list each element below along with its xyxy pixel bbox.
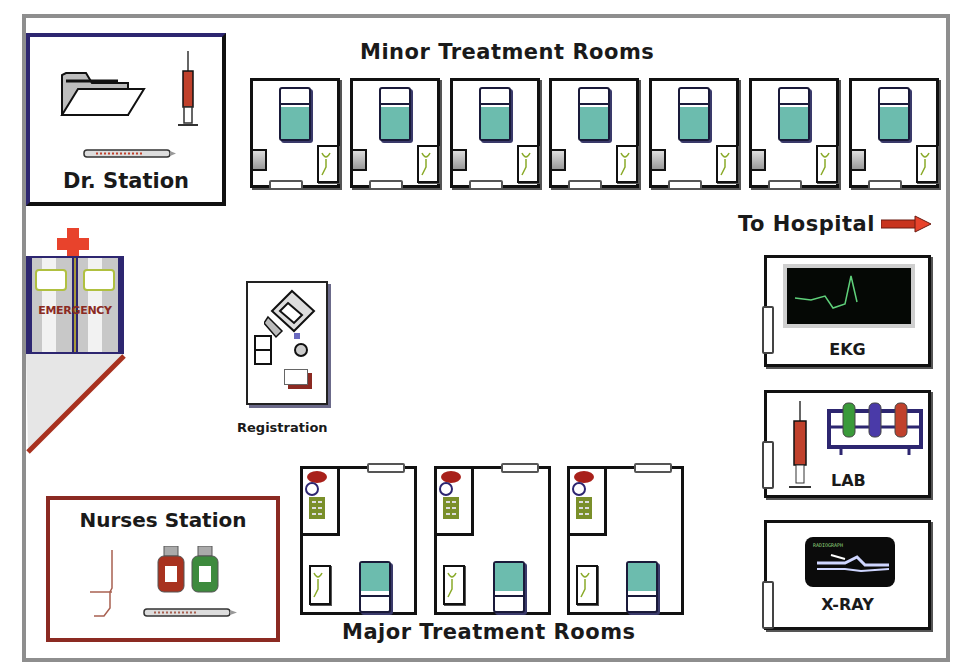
paper-sheet xyxy=(284,369,308,385)
dr-station-label: Dr. Station xyxy=(30,169,222,193)
stethoscope-cabinet-icon xyxy=(309,565,331,605)
major-rooms-heading: Major Treatment Rooms xyxy=(342,620,636,644)
xray-room[interactable]: RADIOGRAPH X-RAY xyxy=(764,520,931,630)
stethoscope-cabinet-icon xyxy=(616,145,638,183)
room-door xyxy=(768,180,802,190)
lab-label: LAB xyxy=(831,471,866,490)
room-door xyxy=(868,180,902,190)
svg-text:RADIOGRAPH: RADIOGRAPH xyxy=(813,542,843,548)
nurses-station-label: Nurses Station xyxy=(50,508,276,532)
equipment-alcove xyxy=(437,469,474,536)
chair-icon xyxy=(550,149,566,171)
minor-treatment-room-3[interactable] xyxy=(450,78,540,188)
bed-icon xyxy=(279,87,311,141)
stethoscope-cabinet-icon xyxy=(317,145,339,183)
to-hospital-label: To Hospital xyxy=(738,212,875,236)
red-bottle-icon xyxy=(156,546,186,594)
major-treatment-room-2[interactable] xyxy=(434,466,551,615)
room-door xyxy=(369,180,403,190)
minor-rooms-heading: Minor Treatment Rooms xyxy=(360,40,654,64)
phone-icon xyxy=(254,335,272,365)
syringe-icon xyxy=(176,51,200,135)
stethoscope-cabinet-icon xyxy=(517,145,539,183)
registration-desk[interactable] xyxy=(246,281,328,405)
xray-label: X-RAY xyxy=(767,595,928,614)
bed-icon xyxy=(359,561,391,613)
emergency-doors-icon xyxy=(26,226,126,456)
bed-icon xyxy=(493,561,525,613)
emergency-label: EMERGENCY xyxy=(26,304,124,317)
bed-icon xyxy=(578,87,610,141)
stethoscope-cabinet-icon xyxy=(916,145,938,183)
room-door xyxy=(668,180,702,190)
bed-icon xyxy=(878,87,910,141)
registration-label: Registration xyxy=(237,420,328,435)
syringe-icon xyxy=(789,401,811,491)
minor-treatment-room-5[interactable] xyxy=(649,78,739,188)
xray-film: RADIOGRAPH xyxy=(805,537,895,587)
major-treatment-room-1[interactable] xyxy=(300,466,417,615)
crash-cart-icon xyxy=(437,469,471,531)
right-arrow-icon xyxy=(881,215,933,233)
emergency-entrance[interactable]: EMERGENCY xyxy=(26,226,126,456)
chair-icon xyxy=(251,149,267,171)
minor-treatment-room-1[interactable] xyxy=(250,78,340,188)
chair-icon xyxy=(351,149,367,171)
stethoscope-cabinet-icon xyxy=(417,145,439,183)
thermometer-icon xyxy=(82,147,178,161)
ekg-label: EKG xyxy=(767,340,928,359)
chair-icon xyxy=(650,149,666,171)
test-tube-rack-icon xyxy=(827,401,923,457)
bed-icon xyxy=(678,87,710,141)
stethoscope-cabinet-icon xyxy=(816,145,838,183)
chair-icon xyxy=(750,149,766,171)
stethoscope-cabinet-icon xyxy=(716,145,738,183)
minor-treatment-room-7[interactable] xyxy=(849,78,939,188)
iv-pole-icon xyxy=(90,548,120,624)
room-door xyxy=(367,463,405,473)
bed-icon xyxy=(479,87,511,141)
equipment-alcove xyxy=(570,469,607,536)
to-hospital-link[interactable]: To Hospital xyxy=(738,212,933,236)
chair-icon xyxy=(850,149,866,171)
minor-treatment-room-2[interactable] xyxy=(350,78,440,188)
room-door xyxy=(634,463,672,473)
folder-icon xyxy=(58,65,148,127)
ekg-room[interactable]: EKG xyxy=(764,255,931,367)
room-door xyxy=(269,180,303,190)
thermometer-icon xyxy=(142,606,240,620)
minor-treatment-room-6[interactable] xyxy=(749,78,839,188)
lab-room[interactable]: LAB xyxy=(764,390,931,498)
ekg-monitor xyxy=(783,264,915,328)
minor-treatment-room-4[interactable] xyxy=(549,78,639,188)
room-door xyxy=(469,180,503,190)
computer-icon xyxy=(264,287,320,343)
crash-cart-icon xyxy=(570,469,604,531)
equipment-alcove xyxy=(303,469,340,536)
dr-station[interactable]: Dr. Station xyxy=(26,33,226,206)
chair-icon xyxy=(451,149,467,171)
stethoscope-cabinet-icon xyxy=(576,565,598,605)
crash-cart-icon xyxy=(303,469,337,531)
dial-icon xyxy=(294,343,308,357)
xray-arm-icon: RADIOGRAPH xyxy=(805,537,895,587)
major-treatment-room-3[interactable] xyxy=(567,466,684,615)
lab-door xyxy=(762,441,774,489)
green-bottle-icon xyxy=(190,546,220,594)
bed-icon xyxy=(626,561,658,613)
room-door xyxy=(501,463,539,473)
nurses-station[interactable]: Nurses Station xyxy=(46,496,280,642)
ekg-waveform-icon xyxy=(787,268,911,324)
room-door xyxy=(568,180,602,190)
bed-icon xyxy=(778,87,810,141)
bed-icon xyxy=(379,87,411,141)
stethoscope-cabinet-icon xyxy=(443,565,465,605)
